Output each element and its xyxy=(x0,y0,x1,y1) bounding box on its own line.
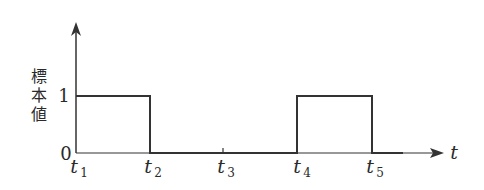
svg-text:t: t xyxy=(217,155,225,177)
svg-text:4: 4 xyxy=(303,166,311,180)
x-tick-t1: t 1 xyxy=(70,155,88,180)
sample-waveform-chart: 標 本 値 1 0 t 1 t 2 t 3 t 4 t 5 t xyxy=(0,0,484,190)
svg-text:t: t xyxy=(293,155,301,177)
y-axis-label: 標 本 値 xyxy=(31,67,47,124)
waveform xyxy=(76,96,403,153)
svg-text:t: t xyxy=(70,155,78,177)
ylabel-char-2: 本 xyxy=(31,86,47,105)
x-tick-t3: t 3 xyxy=(217,155,235,180)
y-tick-1: 1 xyxy=(58,85,69,106)
x-tick-t4: t 4 xyxy=(293,155,311,180)
ylabel-char-3: 値 xyxy=(31,105,47,124)
x-axis-label: t xyxy=(450,141,458,163)
x-tick-t5: t 5 xyxy=(366,155,384,180)
x-tick-t2: t 2 xyxy=(144,155,162,180)
svg-text:5: 5 xyxy=(376,166,384,180)
svg-text:t: t xyxy=(366,155,374,177)
ylabel-char-1: 標 xyxy=(31,67,47,86)
y-axis xyxy=(71,22,81,153)
svg-text:t: t xyxy=(144,155,152,177)
svg-text:2: 2 xyxy=(154,166,162,180)
x-tick-labels: t 1 t 2 t 3 t 4 t 5 xyxy=(70,155,384,180)
svg-text:1: 1 xyxy=(80,166,88,180)
svg-text:3: 3 xyxy=(227,166,235,180)
